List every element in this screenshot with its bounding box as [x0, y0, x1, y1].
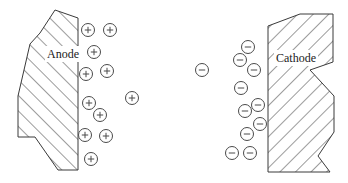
positive-ion	[88, 46, 101, 59]
negative-ion	[242, 41, 255, 54]
negative-ion	[196, 64, 209, 77]
negative-ion	[241, 128, 254, 141]
positive-ion	[82, 24, 95, 37]
negative-ion	[239, 105, 252, 118]
positive-ion	[80, 68, 93, 81]
negative-ion	[248, 64, 261, 77]
positive-ion	[101, 65, 114, 78]
negative-ion-group	[196, 41, 267, 160]
positive-ion	[126, 92, 139, 105]
positive-ion	[79, 129, 92, 142]
anode-label: Anode	[47, 47, 79, 61]
positive-ion	[94, 109, 107, 122]
negative-ion	[235, 82, 248, 95]
negative-ion	[252, 99, 265, 112]
positive-ion-group	[79, 24, 139, 166]
cathode-label: Cathode	[276, 51, 316, 65]
positive-ion	[104, 24, 117, 37]
positive-ion	[85, 153, 98, 166]
electrochemical-cell-diagram: Anode Cathode	[0, 0, 348, 183]
negative-ion	[244, 147, 257, 160]
negative-ion	[234, 54, 247, 67]
negative-ion	[226, 147, 239, 160]
positive-ion	[83, 97, 96, 110]
negative-ion	[254, 118, 267, 131]
positive-ion	[100, 130, 113, 143]
diagram-canvas: Anode Cathode	[0, 0, 348, 183]
